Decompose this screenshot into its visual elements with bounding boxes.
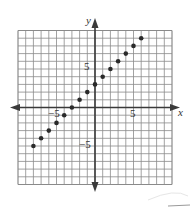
data-point	[31, 144, 36, 149]
data-point	[62, 113, 67, 118]
data-point	[77, 98, 82, 103]
x-axis-label: x	[177, 106, 183, 118]
data-point	[100, 74, 105, 79]
decorative-scan-line	[168, 205, 190, 206]
decorative-scan-curve	[148, 193, 188, 200]
data-point	[47, 128, 52, 133]
y-axis-up-arrow-icon	[92, 18, 99, 28]
data-point	[54, 121, 59, 126]
x-tick-label-pos5: 5	[130, 107, 136, 119]
y-axis-label: y	[85, 14, 91, 26]
data-point	[70, 105, 75, 110]
data-point	[93, 82, 98, 87]
y-tick-label-pos5: 5	[84, 60, 90, 72]
data-point	[116, 59, 121, 64]
y-tick-label-neg5: −5	[79, 138, 91, 150]
y-axis-down-arrow-icon	[92, 182, 99, 192]
x-tick-label-neg5: −5	[48, 107, 60, 119]
data-point	[85, 90, 90, 95]
x-axis-left-arrow-icon	[10, 104, 20, 111]
data-point	[131, 44, 136, 49]
data-point	[108, 67, 113, 72]
coordinate-plane: y x −5 5 5 −5	[0, 0, 193, 209]
data-point	[39, 136, 44, 141]
data-point	[124, 51, 129, 56]
data-point	[139, 36, 144, 41]
axes	[10, 18, 180, 192]
